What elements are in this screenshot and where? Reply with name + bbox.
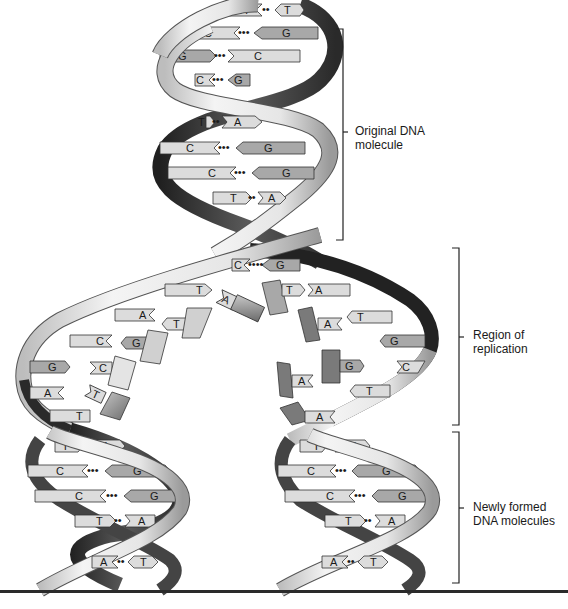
svg-text:G: G [264, 142, 273, 154]
svg-text:T: T [370, 556, 377, 568]
svg-text:T: T [366, 385, 373, 397]
svg-text:A: A [330, 556, 338, 568]
svg-text:C: C [186, 142, 194, 154]
left-free-nucleotides: A T G C T [85, 288, 265, 420]
base-pair: C G ••• [35, 489, 182, 502]
svg-text:T: T [96, 515, 103, 527]
svg-text:T: T [76, 410, 83, 422]
svg-text:A: A [139, 309, 147, 321]
svg-text:•••: ••• [212, 73, 224, 85]
svg-text:T: T [345, 515, 352, 527]
svg-text:••: •• [262, 3, 270, 15]
bottom-divider [0, 590, 568, 593]
new-dna-molecule-left: T A •• C G ••• C G ••• T A •• [28, 430, 183, 590]
svg-text:C: C [307, 465, 315, 477]
svg-text:•••: ••• [218, 141, 230, 153]
base-pair: C G ••• [195, 73, 250, 86]
original-dna-helix: A T •• C G ••• G C ••• C [160, 3, 335, 262]
svg-text:A: A [388, 515, 396, 527]
svg-text:A: A [44, 387, 52, 399]
replication-fork: C G •••• T A C G A T A T [23, 235, 431, 440]
svg-text:••: •• [347, 555, 355, 567]
svg-text:T: T [284, 4, 291, 16]
svg-text:C: C [99, 362, 107, 374]
base-pair: T A •• [213, 191, 286, 204]
base-pair: T A •• [75, 514, 155, 527]
svg-text:••: •• [114, 514, 122, 526]
label-newly-formed-dna-molecules: Newly formed DNA molecules [473, 500, 555, 528]
svg-text:••: •• [117, 555, 125, 567]
bracket-newly-formed [452, 432, 464, 583]
svg-text:A: A [316, 411, 324, 423]
svg-text:T: T [357, 311, 364, 323]
svg-text:A: A [268, 192, 276, 204]
svg-text:•••: ••• [238, 26, 250, 38]
fork-base-pair: C G •••• [232, 258, 300, 271]
svg-text:G: G [234, 74, 243, 86]
svg-text:C: C [234, 259, 242, 271]
dna-replication-diagram: A T •• C G ••• G C ••• C [0, 0, 568, 609]
svg-text:C: C [208, 167, 216, 179]
svg-text:C: C [402, 361, 410, 373]
svg-text:•••: ••• [234, 166, 246, 178]
base-pair: T A •• [325, 514, 405, 527]
svg-text:••••: •••• [248, 258, 264, 270]
svg-text:••: •• [364, 514, 372, 526]
svg-text:C: C [96, 335, 104, 347]
svg-text:•••: ••• [214, 49, 226, 61]
svg-text:G: G [150, 490, 159, 502]
svg-text:••: •• [212, 115, 220, 127]
svg-text:T: T [140, 556, 147, 568]
base-pair: C G ••• [285, 489, 432, 502]
svg-text:T: T [198, 116, 205, 128]
svg-text:C: C [326, 490, 334, 502]
svg-text:G: G [282, 167, 291, 179]
svg-text:A: A [234, 116, 242, 128]
svg-text:G: G [390, 335, 399, 347]
svg-text:A: A [324, 318, 332, 330]
svg-text:C: C [56, 465, 64, 477]
svg-text:•••: ••• [335, 464, 347, 476]
svg-text:A: A [315, 284, 323, 296]
base-pair: C G ••• [168, 166, 314, 179]
svg-text:G: G [132, 337, 141, 349]
svg-text:•••: ••• [106, 489, 118, 501]
svg-text:T: T [196, 284, 203, 296]
svg-text:C: C [75, 490, 83, 502]
label-region-of-replication: Region of replication [473, 328, 528, 356]
svg-text:A: A [100, 556, 108, 568]
base-pair: C G ••• [160, 141, 305, 154]
svg-text:T: T [230, 192, 237, 204]
svg-text:••: •• [248, 191, 256, 203]
base-pair: A T •• [92, 555, 158, 568]
svg-text:A: A [298, 375, 306, 387]
svg-text:T: T [286, 284, 293, 296]
svg-text:•••: ••• [354, 489, 366, 501]
svg-text:G: G [276, 259, 285, 271]
svg-text:G: G [282, 27, 291, 39]
svg-text:T: T [173, 318, 180, 330]
svg-text:A: A [138, 515, 146, 527]
svg-text:G: G [345, 360, 354, 372]
svg-text:G: G [398, 490, 407, 502]
svg-text:G: G [48, 361, 57, 373]
label-original-dna-molecule: Original DNA molecule [355, 124, 425, 152]
new-dna-molecule-right: T A •• C G ••• C G ••• T A •• [278, 435, 433, 590]
svg-text:C: C [254, 50, 262, 62]
svg-text:•••: ••• [87, 464, 99, 476]
bracket-replication [452, 248, 464, 425]
base-pair: T A •• [198, 115, 262, 128]
svg-text:C: C [196, 74, 204, 86]
